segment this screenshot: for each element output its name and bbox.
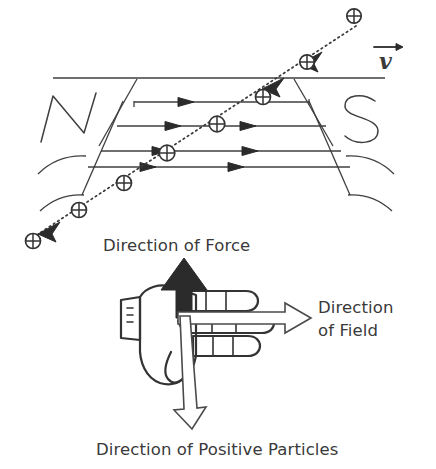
particle-7: [72, 203, 87, 218]
particle-2: [300, 55, 314, 69]
north-body-curve-upper: [38, 156, 86, 174]
particle-5: [159, 145, 175, 161]
particle-4: [209, 116, 225, 132]
magnetic-force-figure: N S: [0, 0, 436, 469]
south-body-curve-upper: [346, 156, 394, 174]
force-label: Direction of Force: [103, 236, 250, 255]
magnet-field-diagram: N S: [26, 9, 404, 249]
ring-finger-knuckles: [213, 336, 233, 356]
index-finger-knuckles: [206, 291, 226, 311]
particle-3: [256, 90, 271, 105]
north-pole-letter-glyph: [41, 93, 96, 142]
current-label: Direction of Positive Particles: [96, 440, 338, 459]
hand-drawing: [121, 285, 274, 384]
force-arrow-group: [161, 258, 207, 318]
south-pole-letter-glyph: [345, 96, 378, 143]
force-arrow-up: [161, 258, 207, 318]
north-pole-label-group: N: [41, 93, 96, 142]
field-line-2-arrowhead-a: [165, 122, 181, 131]
cuff-stripes: [127, 308, 133, 322]
particle-8: [26, 234, 41, 249]
ring-finger: [193, 336, 260, 356]
field-arrow-group: [178, 303, 311, 333]
particle-group: [26, 9, 362, 249]
field-line-3-arrowhead-b: [242, 147, 258, 156]
field-label-line2: of Field: [318, 321, 378, 340]
velocity-vector-label: v: [379, 48, 392, 74]
wrist-cuff: [121, 297, 140, 340]
velocity-vector-label-group: v: [374, 44, 403, 75]
field-arrow-right: [178, 303, 311, 333]
trajectory-arrowhead-lower: [38, 222, 60, 242]
particle-1: [347, 9, 361, 23]
figure-canvas: N S: [0, 0, 436, 469]
field-line-2-arrowhead-b: [240, 122, 256, 131]
field-line-4-arrowhead-b: [228, 163, 244, 172]
south-pole-inner-edge-lower: [309, 101, 350, 195]
velocity-vector-overbar-arrowhead: [396, 44, 403, 51]
south-pole-label-group: S: [345, 96, 378, 143]
south-body-curve-lower: [348, 195, 392, 211]
right-hand-rule-diagram: Direction of Force: [96, 236, 393, 459]
field-line-1-arrowhead: [178, 98, 194, 107]
field-label-line1: Direction: [318, 298, 393, 317]
particle-6: [117, 176, 132, 191]
field-line-4-arrowhead-a: [140, 163, 156, 172]
